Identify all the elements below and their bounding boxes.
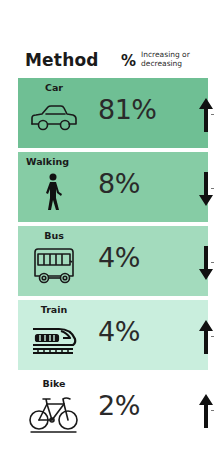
tick-mark <box>211 262 214 263</box>
tick-mark <box>211 114 214 115</box>
tick-mark <box>211 410 214 411</box>
arrow-down-icon <box>198 172 214 206</box>
method-label: Bike <box>28 378 80 389</box>
tick-mark <box>211 336 214 337</box>
percentage-value: 2% <box>98 390 140 421</box>
bicycle-icon <box>28 392 80 436</box>
row-walking: Walking 8% <box>18 152 208 222</box>
method-label: Walking <box>26 156 78 167</box>
arrow-up-icon <box>198 320 214 354</box>
row-train: Train 4% <box>18 300 208 370</box>
walking-person-icon <box>28 170 80 214</box>
arrow-up-icon <box>198 394 214 428</box>
percentage-value: 4% <box>98 242 140 273</box>
method-label: Train <box>28 304 80 315</box>
train-icon <box>28 318 80 362</box>
row-bus: Bus 4% <box>18 226 208 296</box>
percentage-value: 4% <box>98 316 140 347</box>
tick-mark <box>211 188 214 189</box>
car-icon <box>28 96 80 140</box>
method-column-header: Method <box>25 50 99 70</box>
table-header: Method % Increasing or decreasing <box>25 48 215 72</box>
percentage-value: 81% <box>98 94 157 125</box>
row-car: Car 81% <box>18 78 208 148</box>
trend-column-header: Increasing or decreasing <box>141 50 190 68</box>
arrow-up-icon <box>198 98 214 132</box>
arrow-down-icon <box>198 246 214 280</box>
percentage-value: 8% <box>98 168 140 199</box>
method-label: Car <box>28 82 80 93</box>
row-bike: Bike 2% <box>18 374 208 444</box>
method-label: Bus <box>28 230 80 241</box>
percent-column-header: % <box>121 52 136 70</box>
bus-icon <box>28 244 80 288</box>
transport-methods-table: Car 81% Walking 8% <box>18 78 208 448</box>
